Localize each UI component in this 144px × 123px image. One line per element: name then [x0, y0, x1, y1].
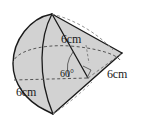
label-right-radius: 6cm — [107, 68, 127, 80]
geometry-figure: 6cm 6cm 6cm 60° — [0, 0, 144, 123]
label-left-radius: 6cm — [16, 86, 36, 98]
label-top-radius: 6cm — [61, 33, 81, 45]
label-central-angle: 60° — [60, 69, 74, 79]
sphere-sector-drawing — [0, 0, 144, 123]
